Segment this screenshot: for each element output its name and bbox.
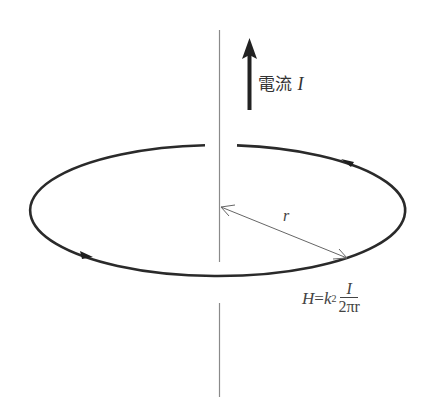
formula-coef: k bbox=[324, 289, 332, 309]
radius-label: r bbox=[283, 207, 289, 225]
magnetic-field-diagram bbox=[0, 0, 439, 413]
radius-arrowhead-center-icon bbox=[221, 205, 235, 216]
formula-lhs: H bbox=[302, 289, 314, 309]
current-variable: I bbox=[297, 74, 303, 94]
formula-denominator: 2πr bbox=[338, 298, 359, 316]
field-formula: H = k2 I 2πr bbox=[302, 281, 360, 316]
formula-numerator: I bbox=[340, 281, 357, 298]
formula-fraction: I 2πr bbox=[338, 281, 359, 316]
current-label-text: 電流 bbox=[258, 74, 292, 94]
current-label: 電流 I bbox=[258, 70, 303, 95]
formula-equals: = bbox=[314, 289, 324, 309]
formula-coef-sub: 2 bbox=[331, 293, 336, 304]
